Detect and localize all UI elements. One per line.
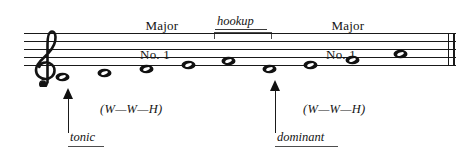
note-head-8 (345, 55, 360, 65)
final-barline-thin (448, 33, 449, 66)
interval-pattern-right: (W—W—H) (303, 102, 366, 117)
hookup-label: hookup (217, 14, 254, 29)
note-head-7 (303, 60, 318, 70)
staff-line-5 (24, 33, 456, 34)
note-head-6 (262, 64, 277, 74)
note-head-1 (55, 72, 70, 82)
dominant-arrow-shaft (275, 90, 276, 133)
tonic-label-underline (68, 146, 104, 147)
note-head-4 (181, 60, 196, 70)
note-head-3 (139, 64, 154, 74)
dominant-label-underline (275, 146, 338, 147)
staff-line-1 (24, 65, 456, 66)
staff (24, 33, 456, 65)
note-head-2 (97, 68, 112, 78)
final-barline-thick (453, 33, 455, 66)
staff-line-2 (24, 57, 456, 58)
note-head-5 (221, 56, 236, 66)
music-figure: Major No. 1 Major No. 1 hookup (0, 0, 474, 160)
tonic-label: tonic (70, 130, 95, 145)
interval-pattern-left: (W—W—H) (100, 102, 163, 117)
dominant-label: dominant (277, 130, 324, 145)
staff-line-3 (24, 49, 456, 50)
hookup-underline (215, 29, 267, 30)
heading-right-line1: Major (332, 18, 365, 33)
staff-line-4 (24, 41, 456, 42)
note-head-9 (393, 49, 408, 59)
heading-left-line1: Major (146, 18, 179, 33)
tonic-arrow-shaft (68, 98, 69, 133)
